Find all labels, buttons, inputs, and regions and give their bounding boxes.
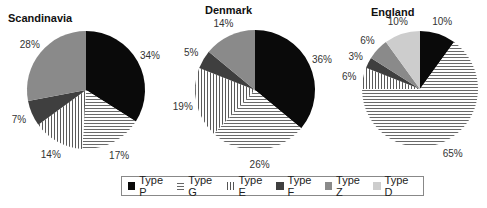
slice-label-type-p: 34% bbox=[140, 50, 160, 61]
legend-item-type-p: Type P bbox=[128, 174, 170, 198]
swatch-horizontal-lines-icon bbox=[177, 182, 184, 190]
pie-scandinavia: 34%17%14%7%28% bbox=[12, 31, 160, 161]
legend-item-type-f: Type F bbox=[276, 174, 318, 198]
slice-label-type-e: 6% bbox=[342, 71, 357, 82]
slice-label-type-g: 65% bbox=[443, 148, 463, 159]
slice-label-type-g: 17% bbox=[109, 150, 129, 161]
legend-item-type-g: Type G bbox=[177, 174, 220, 198]
slice-label-type-g: 26% bbox=[250, 159, 270, 170]
slice-label-type-f: 3% bbox=[349, 51, 364, 62]
pie-england: 10%65%6%3%6%10% bbox=[342, 16, 478, 160]
slice-label-type-f: 5% bbox=[184, 47, 199, 58]
pie-denmark: 36%26%19%5%14% bbox=[173, 18, 332, 170]
legend-label: Type D bbox=[385, 174, 416, 198]
swatch-light-gray-icon bbox=[373, 182, 380, 190]
slice-label-type-e: 14% bbox=[41, 149, 61, 160]
swatch-dark-gray-icon bbox=[276, 182, 283, 190]
legend-label: Type F bbox=[288, 174, 318, 198]
swatch-mid-gray-icon bbox=[325, 182, 332, 190]
legend-label: Type P bbox=[139, 174, 170, 198]
legend-label: Type G bbox=[188, 174, 220, 198]
legend-label: Type Z bbox=[336, 174, 366, 198]
slice-label-type-p: 10% bbox=[432, 16, 452, 27]
swatch-vertical-lines-icon bbox=[227, 182, 234, 190]
swatch-solid-black-icon bbox=[128, 182, 135, 190]
legend-item-type-e: Type E bbox=[227, 174, 269, 198]
legend-item-type-z: Type Z bbox=[325, 174, 367, 198]
slice-label-type-z: 28% bbox=[20, 39, 40, 50]
slice-label-type-z: 14% bbox=[213, 18, 233, 29]
slice-label-type-d: 10% bbox=[388, 16, 408, 27]
slice-label-type-e: 19% bbox=[173, 101, 193, 112]
legend-item-type-d: Type D bbox=[373, 174, 416, 198]
chart-figure: Scandinavia Denmark England 34%17%14%7%2… bbox=[0, 0, 487, 208]
legend: Type P Type G Type E Type F Type Z Type … bbox=[121, 176, 424, 196]
slice-label-type-f: 7% bbox=[12, 114, 27, 125]
legend-label: Type E bbox=[238, 174, 269, 198]
slice-label-type-p: 36% bbox=[312, 54, 332, 65]
slice-label-type-z: 6% bbox=[360, 35, 375, 46]
